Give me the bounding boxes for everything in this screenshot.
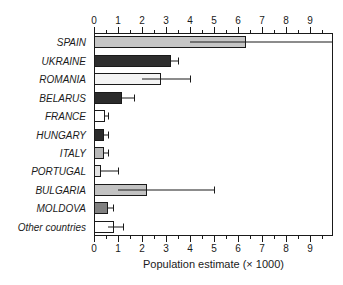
- x-tick-label-7: 7: [252, 243, 272, 254]
- category-label-france: FRANCE: [45, 111, 86, 122]
- category-label-moldova: MOLDOVA: [37, 203, 86, 214]
- x-tick-major-2: [142, 236, 143, 242]
- category-label-italy: ITALY: [60, 147, 86, 158]
- x-tick-label-2: 2: [132, 243, 152, 254]
- error-bar-belarus: [122, 97, 134, 98]
- category-label-spain: SPAIN: [57, 37, 86, 48]
- x-tick-label-9: 9: [300, 15, 320, 26]
- x-tick-label-3: 3: [156, 243, 176, 254]
- error-bar-portugal: [101, 171, 118, 172]
- error-bar-ukraine: [171, 60, 178, 61]
- bar-ukraine: [94, 55, 171, 67]
- x-tick-minor: [298, 236, 299, 239]
- error-cap-upper: [108, 149, 109, 156]
- error-cap-upper: [214, 186, 215, 193]
- category-label-belarus: BELARUS: [39, 92, 86, 103]
- x-tick-label-7: 7: [252, 15, 272, 26]
- category-label-hungary: HUNGARY: [36, 129, 86, 140]
- x-tick-major-1: [118, 236, 119, 242]
- x-tick-minor: [322, 236, 323, 239]
- x-tick-major-6: [238, 236, 239, 242]
- error-bar-spain: [190, 42, 333, 43]
- error-cap-upper: [190, 76, 191, 83]
- x-tick-label-3: 3: [156, 15, 176, 26]
- error-bar-bulgaria: [118, 189, 214, 190]
- bar-france: [94, 110, 105, 122]
- category-label-bulgaria: BULGARIA: [35, 184, 86, 195]
- category-label-portugal: PORTUGAL: [31, 166, 86, 177]
- category-axis-labels: SPAINUKRAINEROMANIABELARUSFRANCEHUNGARYI…: [0, 33, 90, 236]
- x-tick-minor: [178, 236, 179, 239]
- x-tick-label-5: 5: [204, 15, 224, 26]
- x-tick-major-8: [286, 236, 287, 242]
- error-cap-upper: [108, 131, 109, 138]
- bar-hungary: [94, 129, 104, 141]
- category-label-romania: ROMANIA: [39, 74, 86, 85]
- x-tick-major-4: [190, 236, 191, 242]
- x-tick-label-1: 1: [108, 243, 128, 254]
- bar-portugal: [94, 165, 101, 177]
- error-bar-other-countries: [108, 226, 122, 227]
- bar-chart-figure: 0123456789 0123456789 SPAINUKRAINEROMANI…: [0, 0, 343, 285]
- bar-belarus: [94, 92, 122, 104]
- x-tick-major-9: [310, 236, 311, 242]
- error-cap-upper: [113, 205, 114, 212]
- error-cap-upper: [123, 223, 124, 230]
- x-tick-major-7: [262, 236, 263, 242]
- bars-layer: [94, 33, 333, 236]
- bar-italy: [94, 147, 104, 159]
- x-tick-label-0: 0: [84, 15, 104, 26]
- x-tick-label-4: 4: [180, 243, 200, 254]
- x-tick-minor: [250, 236, 251, 239]
- x-tick-minor: [154, 236, 155, 239]
- x-tick-label-9: 9: [300, 243, 320, 254]
- x-tick-label-6: 6: [228, 243, 248, 254]
- category-label-other-countries: Other countries: [18, 221, 86, 232]
- x-tick-minor: [274, 236, 275, 239]
- x-axis-title: Population estimate (× 1000): [94, 258, 333, 270]
- x-tick-minor: [130, 236, 131, 239]
- error-cap-upper: [134, 94, 135, 101]
- x-tick-label-0: 0: [84, 243, 104, 254]
- error-cap-upper: [118, 168, 119, 175]
- x-tick-label-5: 5: [204, 243, 224, 254]
- error-cap-upper: [108, 113, 109, 120]
- x-tick-major-5: [214, 236, 215, 242]
- error-bar-romania: [142, 79, 190, 80]
- x-tick-label-6: 6: [228, 15, 248, 26]
- x-tick-label-4: 4: [180, 15, 200, 26]
- x-tick-label-1: 1: [108, 15, 128, 26]
- x-tick-minor: [226, 236, 227, 239]
- error-cap-upper: [178, 57, 179, 64]
- x-tick-label-8: 8: [276, 243, 296, 254]
- x-tick-major-0: [94, 236, 95, 242]
- x-tick-minor: [106, 236, 107, 239]
- x-tick-minor: [202, 236, 203, 239]
- x-tick-label-2: 2: [132, 15, 152, 26]
- x-tick-major-3: [166, 236, 167, 242]
- category-label-ukraine: UKRAINE: [42, 55, 86, 66]
- bar-moldova: [94, 202, 108, 214]
- x-tick-label-8: 8: [276, 15, 296, 26]
